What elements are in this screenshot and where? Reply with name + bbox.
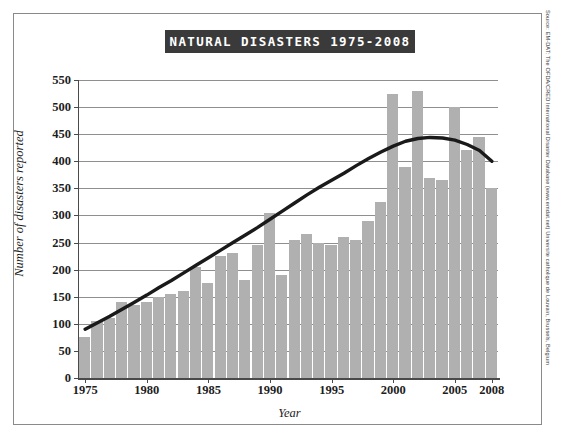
x-tick-label: 2008 xyxy=(469,384,515,397)
y-tick-mark xyxy=(74,324,79,325)
x-tick-mark xyxy=(332,378,333,383)
y-tick-mark xyxy=(74,270,79,271)
y-tick-label: 100 xyxy=(27,318,71,331)
x-axis-label: Year xyxy=(0,406,579,421)
bar xyxy=(91,321,102,378)
y-tick-mark xyxy=(74,80,79,81)
bar xyxy=(473,137,484,378)
bar xyxy=(399,167,410,378)
y-tick-label: 500 xyxy=(27,101,71,114)
x-tick-mark xyxy=(270,378,271,383)
bar xyxy=(227,253,238,378)
x-tick-mark xyxy=(147,378,148,383)
bar xyxy=(190,267,201,378)
bar xyxy=(104,318,115,378)
bar xyxy=(165,294,176,378)
gridline xyxy=(79,134,498,135)
y-tick-mark xyxy=(74,215,79,216)
gridline xyxy=(79,161,498,162)
bar xyxy=(461,150,472,378)
x-tick-mark xyxy=(492,378,493,383)
y-tick-mark xyxy=(74,134,79,135)
bar xyxy=(325,245,336,378)
x-tick-mark xyxy=(85,378,86,383)
bar xyxy=(116,302,127,378)
source-note: Source: EM-DAT: The OFDA/CRED Internatio… xyxy=(545,10,551,410)
plot-area xyxy=(79,80,498,378)
x-tick-mark xyxy=(455,378,456,383)
bar xyxy=(486,188,497,378)
bar xyxy=(264,213,275,378)
y-tick-mark xyxy=(74,351,79,352)
x-tick-label: 1995 xyxy=(309,384,355,397)
x-tick-label: 1990 xyxy=(247,384,293,397)
gridline xyxy=(79,107,498,108)
bar xyxy=(141,302,152,378)
y-tick-mark xyxy=(74,107,79,108)
y-tick-label: 400 xyxy=(27,155,71,168)
x-tick-label: 2000 xyxy=(370,384,416,397)
y-tick-mark xyxy=(74,188,79,189)
y-tick-label: 350 xyxy=(27,182,71,195)
y-tick-label: 50 xyxy=(27,345,71,358)
bar xyxy=(424,178,435,378)
y-tick-mark xyxy=(74,243,79,244)
y-tick-mark xyxy=(74,297,79,298)
x-tick-label: 1975 xyxy=(62,384,108,397)
y-tick-label: 250 xyxy=(27,237,71,250)
bar xyxy=(128,305,139,378)
gridline xyxy=(79,80,498,81)
bar xyxy=(387,94,398,378)
bar xyxy=(436,180,447,378)
x-tick-label: 1980 xyxy=(124,384,170,397)
bar xyxy=(276,275,287,378)
y-tick-label: 200 xyxy=(27,264,71,277)
bar xyxy=(412,91,423,378)
bar xyxy=(239,280,250,378)
x-axis-line xyxy=(78,378,500,380)
bar xyxy=(362,221,373,378)
bar xyxy=(178,291,189,378)
page-title: NATURAL DISASTERS 1975-2008 xyxy=(170,34,411,49)
chart-title-banner: NATURAL DISASTERS 1975-2008 xyxy=(165,30,415,53)
bar xyxy=(79,337,90,378)
bar xyxy=(202,283,213,378)
y-tick-mark xyxy=(74,378,79,379)
bar xyxy=(338,237,349,378)
y-tick-mark xyxy=(74,161,79,162)
chart-figure: NATURAL DISASTERS 1975-2008 050100150200… xyxy=(0,0,579,441)
bar xyxy=(449,107,460,378)
bar xyxy=(350,240,361,378)
bar xyxy=(215,256,226,378)
y-tick-label: 300 xyxy=(27,209,71,222)
y-tick-label: 550 xyxy=(27,74,71,87)
x-tick-mark xyxy=(208,378,209,383)
x-tick-mark xyxy=(393,378,394,383)
y-tick-label: 450 xyxy=(27,128,71,141)
x-tick-label: 1985 xyxy=(185,384,231,397)
bar xyxy=(289,240,300,378)
y-tick-label: 0 xyxy=(27,372,71,385)
bar xyxy=(375,202,386,378)
bar xyxy=(313,243,324,378)
bar xyxy=(252,245,263,378)
y-axis-label: Number of disasters reported xyxy=(12,89,27,319)
bar xyxy=(301,234,312,378)
y-tick-label: 150 xyxy=(27,291,71,304)
bar xyxy=(153,297,164,378)
